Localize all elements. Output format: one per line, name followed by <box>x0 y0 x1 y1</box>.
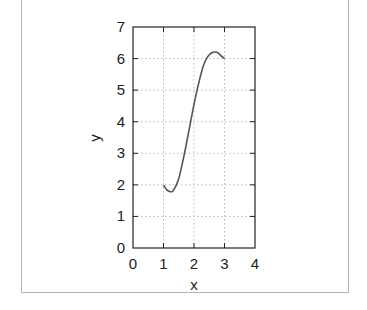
grid-lines <box>133 27 255 248</box>
x-axis-label: x <box>190 276 198 293</box>
x-tick-label: 0 <box>129 255 137 272</box>
axis-ticks: 0123401234567 <box>117 18 260 272</box>
y-axis-label: y <box>86 134 103 142</box>
x-tick-label: 1 <box>159 255 167 272</box>
y-tick-label: 2 <box>117 176 125 193</box>
x-tick-label: 3 <box>220 255 228 272</box>
y-tick-label: 0 <box>117 239 125 256</box>
y-tick-label: 5 <box>117 81 125 98</box>
x-tick-label: 4 <box>251 255 259 272</box>
line-chart: 0123401234567 x y <box>0 0 367 310</box>
y-tick-label: 6 <box>117 50 125 67</box>
y-tick-label: 1 <box>117 207 125 224</box>
x-tick-label: 2 <box>190 255 198 272</box>
y-tick-label: 3 <box>117 144 125 161</box>
y-tick-label: 4 <box>117 113 125 130</box>
y-tick-label: 7 <box>117 18 125 35</box>
